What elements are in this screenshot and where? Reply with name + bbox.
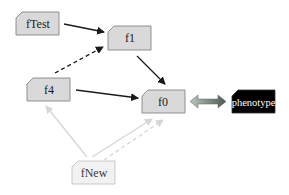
node-label-phenotype: phenotype [232,97,276,108]
edge-fNew-to-f0-faded-dashed [104,120,163,160]
node-fTest[interactable]: fTest [16,12,59,35]
edge-fNew-to-f0-faded [92,119,152,157]
node-f0[interactable]: f0 [142,90,185,113]
double-arrow-icon [190,95,226,108]
node-label-f0: f0 [158,95,168,109]
edge-fTest-to-f1 [64,24,104,32]
edge-f4-to-f0 [76,90,138,98]
node-label-f4: f4 [44,83,54,97]
node-label-fTest: fTest [26,17,50,31]
edge-f4-to-f1-dashed [55,47,103,73]
node-label-fNew: fNew [81,166,108,180]
dependency-diagram: fTest f1 f4 f0 phenotype fNew [0,0,289,195]
node-phenotype[interactable]: phenotype [232,90,276,113]
node-label-f1: f1 [125,31,135,45]
edge-fNew-to-f4-faded [46,106,87,157]
node-fNew[interactable]: fNew [72,161,115,184]
node-f4[interactable]: f4 [27,78,70,101]
node-f1[interactable]: f1 [108,26,151,50]
edge-f1-to-f0 [137,56,165,84]
